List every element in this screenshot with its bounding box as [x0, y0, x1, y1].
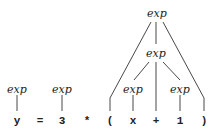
token-rparen: ): [201, 115, 208, 127]
token-times: *: [84, 115, 91, 127]
edge-inner-leafx: [134, 62, 149, 80]
token-row: y = 3 * ( x + 1 ): [14, 115, 208, 127]
token-plus: +: [153, 115, 160, 127]
node-leaf-3: exp: [52, 83, 72, 96]
nonterminal-nodes: exp exp exp exp exp exp: [7, 7, 190, 96]
tree-edges: [17, 22, 204, 111]
node-leaf-y: exp: [7, 83, 27, 96]
token-equals: =: [37, 115, 44, 127]
node-inner: exp: [146, 47, 166, 60]
token-lparen: (: [107, 115, 114, 127]
token-3: 3: [59, 115, 66, 127]
node-leaf-x: exp: [123, 83, 143, 96]
node-root: exp: [147, 7, 167, 20]
parse-tree-diagram: exp exp exp exp exp exp y = 3 * ( x + 1 …: [0, 0, 219, 135]
edge-inner-leaf1: [163, 62, 180, 80]
node-leaf-1: exp: [170, 83, 190, 96]
token-1: 1: [177, 115, 184, 127]
token-x: x: [130, 115, 137, 127]
token-y: y: [14, 115, 21, 127]
